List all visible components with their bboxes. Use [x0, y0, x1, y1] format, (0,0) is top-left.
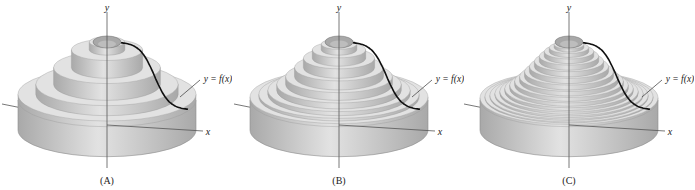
y-axis-label: y — [104, 2, 110, 13]
panel-c: yxy = f(x)(C) — [462, 0, 694, 190]
panel-label: (A) — [100, 175, 114, 187]
curve-label: y = f(x) — [435, 74, 464, 85]
curve-label: y = f(x) — [665, 74, 694, 85]
x-axis-label: x — [667, 126, 673, 137]
curve-label: y = f(x) — [203, 74, 232, 85]
y-axis-label: y — [336, 2, 342, 13]
x-axis-label: x — [205, 126, 211, 137]
panel-a: yxy = f(x)(A) — [0, 0, 232, 190]
panel-label: (C) — [562, 175, 575, 187]
panel-label: (B) — [332, 175, 345, 187]
panel-b: yxy = f(x)(B) — [232, 0, 464, 190]
x-axis-label: x — [437, 126, 443, 137]
y-axis-label: y — [566, 2, 572, 13]
